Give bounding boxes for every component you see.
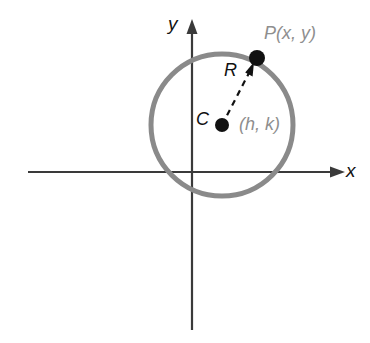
x-axis-label: x xyxy=(346,161,356,180)
x-axis-arrowhead xyxy=(330,167,345,178)
circle-point-dot xyxy=(249,50,265,66)
diagram-canvas xyxy=(0,0,370,343)
y-axis-label: y xyxy=(168,14,178,33)
y-axis-arrowhead xyxy=(187,19,198,34)
center-coordinate-label: (h, k) xyxy=(239,115,280,133)
circle-diagram: y x C (h, k) R P(x, y) xyxy=(0,0,370,343)
radius-label: R xyxy=(224,61,237,79)
center-point-label: C xyxy=(196,110,209,128)
center-point-dot xyxy=(215,118,229,132)
circle-point-label: P(x, y) xyxy=(264,24,316,42)
